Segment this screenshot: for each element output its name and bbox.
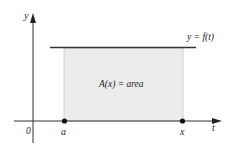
point-a [62,118,67,123]
area-label: A(x) = area [98,79,144,90]
point-x [180,118,185,123]
origin-label: 0 [26,126,31,136]
function-label: y = f(t) [186,32,214,43]
t-axis-label: t [212,122,215,133]
point-a-label: a [61,126,66,137]
y-axis-arrow-icon [30,13,36,23]
y-axis-label: y [23,10,29,21]
area-function-diagram: y y = f(t) A(x) = area 0 a x t [0,0,234,148]
point-x-label: x [179,126,185,137]
